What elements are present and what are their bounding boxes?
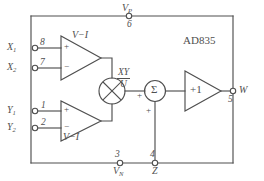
label-y2-input: Y2	[7, 122, 16, 133]
terminal-w	[230, 88, 235, 93]
label-positive-supply: VP	[122, 3, 132, 14]
pin-number-2: 2	[41, 118, 46, 128]
label-vi-top: V−I	[72, 30, 88, 40]
label-x2-input: X2	[7, 62, 16, 73]
label-z-input: Z	[152, 166, 158, 176]
transfer-function-label: XY U	[117, 68, 130, 89]
vi-top-minus-sign: −	[64, 62, 69, 71]
vi-bottom-minus-sign: −	[64, 122, 69, 131]
vi-bottom-output-wire	[101, 104, 112, 121]
label-y1-input: Y1	[7, 105, 16, 116]
pin-number-4: 4	[150, 150, 155, 160]
diagram-canvas: VP 6 VN 3 Z 4 X1 8 X2 7 Y1 1 Y2 2 W 5 V−…	[0, 0, 264, 181]
terminal-y2	[32, 125, 37, 130]
pin-number-1: 1	[41, 101, 46, 111]
part-number-label: AD835	[183, 35, 215, 46]
pin-number-5: 5	[228, 95, 233, 105]
summer-plus-left: +	[137, 91, 142, 100]
terminal-x2	[32, 65, 37, 70]
pin-number-3: 3	[115, 150, 120, 160]
label-vi-bottom: V−I	[63, 132, 79, 142]
label-negative-supply: VN	[113, 166, 124, 177]
label-x1-input: X1	[7, 42, 16, 53]
transfer-denominator: U	[117, 80, 130, 90]
pin-number-8: 8	[40, 38, 45, 48]
summer-plus-bottom: +	[146, 106, 151, 115]
terminal-x1	[32, 45, 37, 50]
vi-top-output-wire	[101, 58, 112, 78]
pin-number-7: 7	[40, 58, 45, 68]
transfer-numerator: XY	[117, 68, 130, 78]
pin-number-6: 6	[127, 20, 132, 30]
label-w-output: W	[239, 85, 247, 95]
terminal-y1	[32, 108, 37, 113]
buffer-gain-label: +1	[190, 84, 202, 95]
vi-bottom-plus-sign: +	[64, 105, 69, 114]
vi-top-plus-sign: +	[64, 42, 69, 51]
circuit-schematic	[0, 0, 264, 181]
summer-sigma-symbol: Σ	[151, 84, 157, 95]
